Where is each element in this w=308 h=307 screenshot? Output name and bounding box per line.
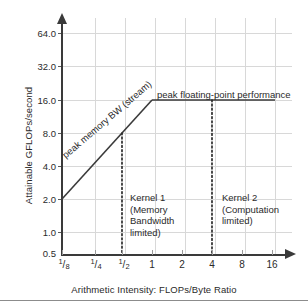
y-tick-label: 0.5 <box>14 248 56 259</box>
x-tick-mark <box>212 250 213 255</box>
x-tick-mark <box>182 250 183 255</box>
x-tick-mark <box>242 250 243 255</box>
x-tick-label: 16 <box>252 259 292 270</box>
x-tick-denominator: 4 <box>97 262 101 271</box>
x-tick-denominator: 8 <box>65 262 69 271</box>
kernel-1-label-line3: Bandwidth <box>130 215 174 227</box>
y-tick-label: 64.0 <box>14 28 56 39</box>
gridline-horizontal <box>62 232 292 233</box>
y-tick-label: 16.0 <box>14 95 56 106</box>
gridline-vertical <box>125 18 126 255</box>
y-tick-label: 2.0 <box>14 194 56 205</box>
kernel-2-label-line3: limited) <box>222 215 279 227</box>
kernel-1-label-line1: Kernel 1 <box>130 192 174 204</box>
kernel-1-label-line4: limited) <box>130 227 174 239</box>
y-tick-label: 8.0 <box>14 128 56 139</box>
y-tick-label: 32.0 <box>14 61 56 72</box>
x-tick-denominator: 2 <box>125 262 129 271</box>
roofline-chart-figure: Attainable GFLOPs/second 64.0 32.0 16.0 … <box>0 0 308 307</box>
gridline-vertical <box>185 18 186 255</box>
gridline-vertical <box>215 18 216 255</box>
kernel-2-label: Kernel 2 (Computation limited) <box>222 192 279 227</box>
kernel-2-label-line1: Kernel 2 <box>222 192 279 204</box>
footer-divider <box>0 300 308 301</box>
y-tick-label: 1.0 <box>14 227 56 238</box>
x-axis-title: Arithmetic Intensity: FLOPs/Byte Ratio <box>0 284 308 295</box>
gridline-horizontal <box>62 166 292 167</box>
gridline-horizontal <box>62 33 292 34</box>
y-tick-label: 4.0 <box>14 161 56 172</box>
gridline-horizontal <box>62 66 292 67</box>
peak-flop-label: peak floating-point performance <box>157 89 291 101</box>
x-axis-arrow-icon <box>285 249 296 259</box>
y-axis-arrow-icon <box>57 13 67 24</box>
x-tick-mark <box>122 250 123 255</box>
x-tick-mark <box>62 250 63 255</box>
kernel-1-label-line2: (Memory <box>130 204 174 216</box>
y-axis-line <box>61 22 63 256</box>
kernel-1-label: Kernel 1 (Memory Bandwidth limited) <box>130 192 174 238</box>
kernel-2-label-line2: (Computation <box>222 204 279 216</box>
x-tick-mark <box>95 250 96 255</box>
x-tick-mark <box>272 250 273 255</box>
x-tick-mark <box>152 250 153 255</box>
y-axis-title: Attainable GFLOPs/second <box>23 56 34 236</box>
